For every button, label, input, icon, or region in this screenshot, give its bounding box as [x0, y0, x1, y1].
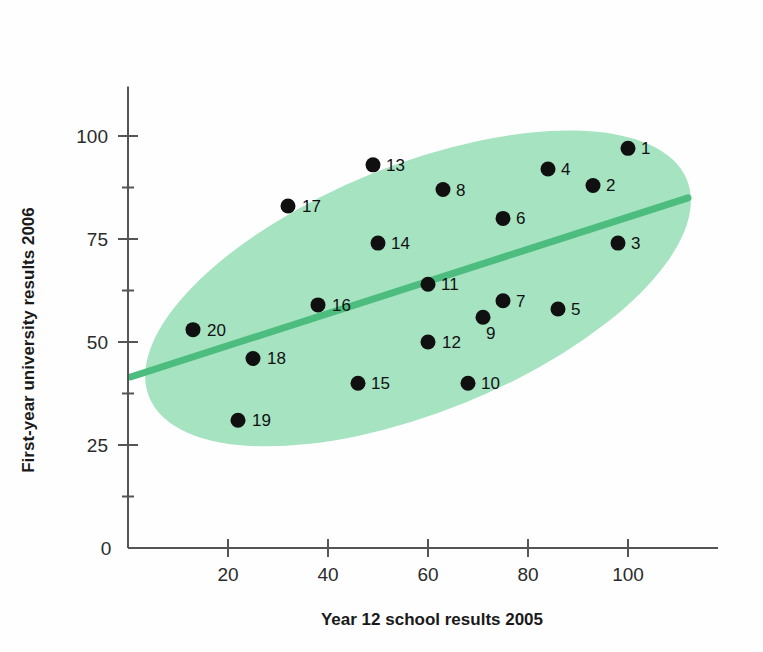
data-point-label: 4	[561, 160, 570, 179]
data-point-marker	[436, 182, 451, 197]
y-axis-title: First-year university results 2006	[19, 207, 38, 473]
y-tick-label: 50	[87, 332, 108, 353]
data-point-label: 3	[631, 234, 640, 253]
data-point-label: 2	[606, 176, 615, 195]
data-point-label: 15	[371, 374, 390, 393]
x-tick-label: 0	[101, 538, 112, 559]
data-point-label: 17	[302, 197, 321, 216]
data-point-marker	[311, 297, 326, 312]
data-point-label: 20	[207, 321, 226, 340]
concentration-ellipse-group	[103, 65, 733, 511]
data-point-marker	[461, 376, 476, 391]
data-point: 13	[366, 156, 405, 175]
data-point-label: 16	[332, 296, 351, 315]
data-point-marker	[421, 335, 436, 350]
data-point-marker	[551, 302, 566, 317]
data-point-marker	[281, 199, 296, 214]
data-point-marker	[186, 322, 201, 337]
data-point-label: 9	[486, 324, 495, 343]
scatter-plot-figure: 020406080100 255075100 12345678910111213…	[0, 0, 763, 652]
data-point-label: 7	[516, 292, 525, 311]
data-point: 10	[461, 374, 500, 393]
x-tick-label: 60	[417, 564, 438, 585]
data-point-label: 8	[456, 181, 465, 200]
data-point-label: 14	[391, 234, 410, 253]
x-tick-label: 20	[217, 564, 238, 585]
data-point: 14	[371, 234, 410, 253]
x-tick-label: 80	[517, 564, 538, 585]
data-point: 15	[351, 374, 390, 393]
data-point-marker	[496, 211, 511, 226]
data-point-marker	[621, 141, 636, 156]
data-point-marker	[371, 236, 386, 251]
data-point-marker	[231, 413, 246, 428]
data-point-label: 5	[571, 300, 580, 319]
x-tick-label: 100	[612, 564, 644, 585]
data-point-label: 18	[267, 349, 286, 368]
data-point-label: 12	[442, 333, 461, 352]
data-point-marker	[496, 293, 511, 308]
y-tick-label: 75	[87, 229, 108, 250]
data-point-marker	[421, 277, 436, 292]
x-axis-ticks: 020406080100	[101, 532, 644, 585]
data-point-marker	[366, 157, 381, 172]
x-tick-label: 40	[317, 564, 338, 585]
data-point-label: 13	[386, 156, 405, 175]
data-point-marker	[476, 310, 491, 325]
data-point-marker	[541, 161, 556, 176]
y-tick-label: 100	[76, 126, 108, 147]
y-tick-label: 25	[87, 435, 108, 456]
concentration-ellipse	[103, 65, 733, 511]
data-point-label: 10	[481, 374, 500, 393]
data-point-marker	[351, 376, 366, 391]
data-point-marker	[586, 178, 601, 193]
scatter-plot-canvas: 020406080100 255075100 12345678910111213…	[0, 0, 763, 652]
data-point-label: 1	[641, 139, 650, 158]
data-point-label: 19	[252, 411, 271, 430]
data-point-marker	[246, 351, 261, 366]
x-axis-title: Year 12 school results 2005	[321, 610, 543, 629]
data-point-label: 6	[516, 209, 525, 228]
data-point-marker	[611, 236, 626, 251]
data-point-label: 11	[441, 275, 459, 294]
